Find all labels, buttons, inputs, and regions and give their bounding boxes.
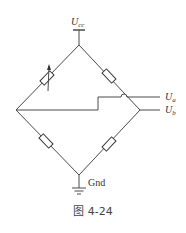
- supply-label: Ucc: [71, 16, 85, 29]
- output-b-label: Ub: [165, 104, 176, 117]
- arrow-head-icon: [47, 64, 51, 70]
- figure-caption: 图 4-24: [73, 205, 112, 218]
- resistor-icon: [39, 134, 53, 148]
- ground-icon: [72, 175, 86, 194]
- supply-terminal: [73, 30, 85, 45]
- output-a-label: Ua: [165, 91, 176, 104]
- bridge-circuit-diagram: Ucc Ua Ub Gnd 图 4-24: [0, 0, 186, 233]
- ground-label: Gnd: [88, 177, 105, 188]
- resistor-icon: [102, 137, 116, 151]
- variable-resistor-icon: [40, 71, 54, 85]
- resistor-icon: [102, 69, 116, 83]
